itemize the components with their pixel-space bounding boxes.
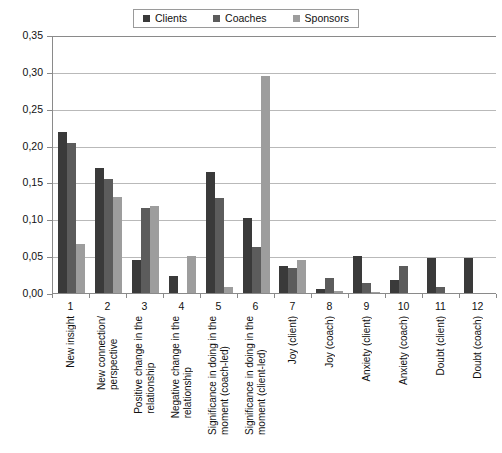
x-axis-category-label: Anxiety (coach) bbox=[398, 316, 410, 385]
bar-sponsors bbox=[261, 76, 270, 293]
x-axis-category-label: Joy (coach) bbox=[324, 316, 336, 368]
bar-sponsors bbox=[224, 287, 233, 293]
legend-label-coaches: Coaches bbox=[225, 13, 266, 24]
legend-square-icon bbox=[213, 15, 220, 22]
bar-clients bbox=[58, 132, 67, 293]
bar-sponsors bbox=[334, 291, 343, 293]
x-axis-category-label: Significance in doing in the moment (coa… bbox=[207, 316, 231, 435]
x-axis-category-label: Anxiety (client) bbox=[361, 316, 373, 382]
x-axis-category-number: 4 bbox=[179, 300, 185, 312]
bar-clients bbox=[132, 260, 141, 293]
x-axis-tick-mark bbox=[459, 294, 460, 298]
bar-group bbox=[201, 36, 238, 293]
x-axis-category: 6Significance in doing in the moment (cl… bbox=[237, 300, 274, 452]
x-axis-category: 1New insight bbox=[52, 300, 89, 452]
y-axis-tick-label: 0,10 bbox=[23, 214, 43, 225]
x-axis-tick-mark bbox=[200, 294, 201, 298]
x-axis-category-label: Doubt (coach) bbox=[472, 316, 484, 379]
x-axis-tick-mark bbox=[126, 294, 127, 298]
legend-label-sponsors: Sponsors bbox=[305, 13, 349, 24]
bar-clients bbox=[464, 258, 473, 293]
bar-clients bbox=[353, 256, 362, 293]
x-axis-category: 10Anxiety (coach) bbox=[385, 300, 422, 452]
y-axis-tick-label: 0,25 bbox=[23, 104, 43, 115]
bar-clients bbox=[279, 266, 288, 293]
bar-coaches bbox=[141, 208, 150, 293]
bar-coaches bbox=[436, 287, 445, 293]
bar-group bbox=[422, 36, 459, 293]
x-axis-category-number: 2 bbox=[105, 300, 111, 312]
x-axis-category-number: 1 bbox=[68, 300, 74, 312]
bar-sponsors bbox=[113, 197, 122, 293]
bar-sponsors bbox=[371, 292, 380, 293]
x-axis-category-label: Significance in doing in the moment (cli… bbox=[244, 316, 268, 435]
bar-clients bbox=[169, 276, 178, 293]
x-axis-category: 12Doubt (coach) bbox=[459, 300, 496, 452]
x-axis-category-label: Positive change in the relationship bbox=[133, 316, 157, 414]
y-axis-tick-label: 0,20 bbox=[23, 141, 43, 152]
x-axis-ticks bbox=[52, 294, 496, 299]
x-axis-category-label: New insight bbox=[65, 316, 77, 368]
x-axis-category: 4Negative change in the relationship bbox=[163, 300, 200, 452]
legend-square-icon bbox=[143, 15, 150, 22]
bar-sponsors bbox=[150, 206, 159, 293]
bar-coaches bbox=[252, 247, 261, 293]
x-axis-labels: 1New insight2New connection/ perspective… bbox=[52, 300, 496, 452]
x-axis-category-number: 7 bbox=[290, 300, 296, 312]
x-axis-category: 11Doubt (client) bbox=[422, 300, 459, 452]
bar-group bbox=[275, 36, 312, 293]
bar-group bbox=[311, 36, 348, 293]
x-axis-tick-mark bbox=[348, 294, 349, 298]
bar-clients bbox=[316, 289, 325, 293]
bar-coaches bbox=[215, 198, 224, 293]
bar-group bbox=[238, 36, 275, 293]
x-axis-category-label: New connection/ perspective bbox=[96, 316, 120, 390]
y-axis-tick-label: 0,05 bbox=[23, 251, 43, 262]
x-axis-category-number: 10 bbox=[398, 300, 410, 312]
x-axis-category-number: 8 bbox=[327, 300, 333, 312]
x-axis-category: 9Anxiety (client) bbox=[348, 300, 385, 452]
x-axis-category-number: 12 bbox=[472, 300, 484, 312]
chart-legend: Clients Coaches Sponsors bbox=[133, 9, 359, 28]
bar-group bbox=[127, 36, 164, 293]
bar-group bbox=[90, 36, 127, 293]
y-axis-tick-label: 0,35 bbox=[23, 30, 43, 41]
x-axis-category: 2New connection/ perspective bbox=[89, 300, 126, 452]
y-axis-tick-label: 0,15 bbox=[23, 177, 43, 188]
x-axis-tick-mark bbox=[496, 294, 497, 298]
x-axis-category-number: 3 bbox=[142, 300, 148, 312]
bar-clients bbox=[390, 280, 399, 293]
bar-group bbox=[348, 36, 385, 293]
x-axis-tick-mark bbox=[163, 294, 164, 298]
bars-layer bbox=[53, 36, 496, 293]
bar-coaches bbox=[104, 179, 113, 293]
x-axis-tick-mark bbox=[52, 294, 53, 298]
x-axis-category: 8Joy (coach) bbox=[311, 300, 348, 452]
legend-item-coaches: Coaches bbox=[213, 13, 266, 24]
x-axis-tick-mark bbox=[422, 294, 423, 298]
bar-group bbox=[53, 36, 90, 293]
x-axis-category-number: 11 bbox=[435, 300, 446, 312]
bar-coaches bbox=[288, 268, 297, 293]
bar-sponsors bbox=[76, 244, 85, 293]
x-axis-tick-mark bbox=[274, 294, 275, 298]
bar-clients bbox=[243, 218, 252, 293]
x-axis-tick-mark bbox=[385, 294, 386, 298]
x-axis-category-number: 9 bbox=[364, 300, 370, 312]
legend-label-clients: Clients bbox=[155, 13, 187, 24]
legend-item-clients: Clients bbox=[143, 13, 187, 24]
x-axis-tick-mark bbox=[237, 294, 238, 298]
bar-group bbox=[459, 36, 496, 293]
x-axis-category: 5Significance in doing in the moment (co… bbox=[200, 300, 237, 452]
bar-group bbox=[385, 36, 422, 293]
bar-group bbox=[164, 36, 201, 293]
x-axis-tick-mark bbox=[311, 294, 312, 298]
bar-coaches bbox=[362, 283, 371, 293]
x-axis-category-label: Negative change in the relationship bbox=[170, 316, 194, 418]
plot-area bbox=[52, 36, 496, 294]
x-axis-category-label: Joy (client) bbox=[287, 316, 299, 364]
y-axis-tick-label: 0,30 bbox=[23, 67, 43, 78]
x-axis-category: 7Joy (client) bbox=[274, 300, 311, 452]
y-axis-tick-label: 0,00 bbox=[23, 288, 43, 299]
x-axis-category: 3Positive change in the relationship bbox=[126, 300, 163, 452]
